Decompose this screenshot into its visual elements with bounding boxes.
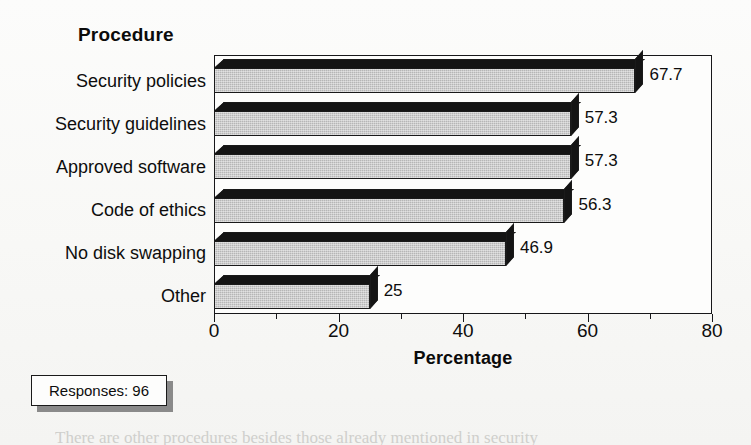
- value-tick-label: 80: [701, 320, 722, 342]
- category-label: Approved software: [56, 158, 206, 176]
- bar-front-face: [214, 154, 571, 179]
- page-body-text: There are other procedures besides those…: [55, 428, 538, 445]
- bar-top-face: [214, 189, 574, 198]
- category-axis-title: Procedure: [78, 24, 174, 46]
- category-label: Code of ethics: [91, 201, 206, 219]
- bar-top-face: [214, 232, 516, 241]
- category-label: Other: [161, 287, 206, 305]
- category-axis-labels: Security policiesSecurity guidelinesAppr…: [0, 55, 206, 314]
- value-tick-label: 60: [577, 320, 598, 342]
- value-tick-label: 20: [328, 320, 349, 342]
- category-label: Security guidelines: [55, 115, 206, 133]
- bar-top-face: [214, 102, 581, 111]
- value-tick-label: 40: [452, 320, 473, 342]
- bar-top-face: [214, 145, 581, 154]
- bar-value-label: 25: [384, 281, 403, 301]
- value-tick-label: 0: [209, 320, 220, 342]
- category-label: No disk swapping: [65, 244, 206, 262]
- bar-front-face: [214, 111, 571, 136]
- bar-value-label: 56.3: [578, 195, 611, 215]
- bar-front-face: [214, 284, 370, 309]
- bar-front-face: [214, 68, 635, 93]
- value-tick-minor: [401, 314, 402, 319]
- value-tick-minor: [525, 314, 526, 319]
- bar-value-label: 57.3: [585, 151, 618, 171]
- bar-value-label: 46.9: [520, 238, 553, 258]
- category-label: Security policies: [76, 72, 206, 90]
- value-tick-minor: [650, 314, 651, 319]
- value-axis-title: Percentage: [214, 348, 712, 369]
- value-tick-minor: [276, 314, 277, 319]
- bar-front-face: [214, 198, 564, 223]
- bar-top-face: [214, 275, 380, 284]
- responses-annotation-label: Responses: 96: [49, 382, 149, 399]
- bar-front-face: [214, 241, 506, 266]
- bar-value-label: 57.3: [585, 108, 618, 128]
- responses-annotation-box: Responses: 96: [31, 375, 167, 406]
- bar-value-label: 67.7: [649, 65, 682, 85]
- bar-top-face: [214, 59, 645, 68]
